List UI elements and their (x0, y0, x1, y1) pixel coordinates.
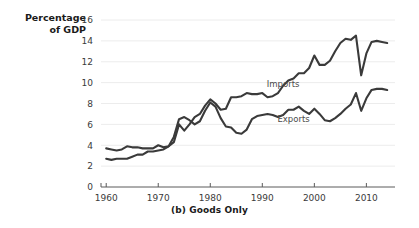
line-chart: 0246810121416 196019701980199020002010 I… (0, 0, 419, 228)
y-tick-label: 10 (82, 78, 94, 88)
x-tick-label: 1960 (95, 193, 118, 203)
y-tick-label: 0 (87, 182, 93, 192)
y-tick-label: 2 (87, 161, 93, 171)
y-tick-labels-group: 0246810121416 (82, 15, 94, 192)
y-tick-label: 8 (87, 99, 93, 109)
x-tick-label: 2000 (303, 193, 326, 203)
x-tick-label: 1980 (199, 193, 222, 203)
x-tick-label: 1970 (147, 193, 170, 203)
series-labels-group: ImportsExports (267, 79, 310, 124)
x-axis-group (101, 183, 395, 187)
y-tick-label: 6 (87, 120, 93, 130)
y-tick-label: 14 (82, 36, 94, 46)
series-lines-group (106, 36, 387, 160)
series-label-exports: Exports (277, 114, 310, 124)
series-label-imports: Imports (267, 79, 300, 89)
series-line-exports (106, 89, 387, 151)
x-tick-label: 1990 (251, 193, 274, 203)
chart-caption: (b) Goods Only (0, 205, 419, 215)
y-tick-label: 12 (82, 57, 93, 67)
x-tick-labels-group: 196019701980199020002010 (95, 193, 378, 203)
y-tick-label: 16 (82, 15, 94, 25)
x-tick-label: 2010 (355, 193, 378, 203)
series-line-imports (106, 36, 387, 160)
y-tick-label: 4 (87, 141, 93, 151)
